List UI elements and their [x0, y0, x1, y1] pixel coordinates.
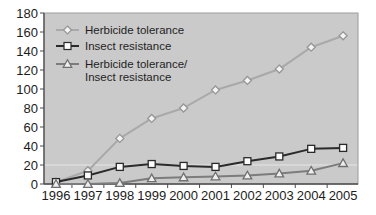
y-axis-label-80: 80 [24, 101, 38, 116]
marker-square-insect-resistance-2003 [276, 153, 283, 160]
y-axis-label-60: 60 [24, 120, 38, 135]
y-axis-label-100: 100 [16, 82, 38, 97]
legend-label-insect-resistance-line1: Insect resistance [85, 40, 171, 52]
marker-square-insect-resistance-1998 [116, 163, 123, 170]
biotech-crop-traits-chart: 0204060801001201401601801996199719981999… [0, 0, 376, 215]
marker-square-insect-resistance-1997 [84, 172, 91, 179]
marker-square-insect-resistance-1999 [148, 161, 155, 168]
x-axis-label-1997: 1997 [73, 188, 102, 203]
legend-label-herbicide-tolerance-insect-resistance-line2: Insect resistance [85, 71, 171, 83]
marker-square-insect-resistance-2001 [212, 163, 219, 170]
x-axis-label-1998: 1998 [105, 188, 134, 203]
legend-label-herbicide-tolerance-line1: Herbicide tolerance [85, 24, 184, 36]
marker-square-insect-resistance-2004 [308, 145, 315, 152]
y-axis-label-40: 40 [24, 139, 38, 154]
y-axis-label-140: 140 [16, 44, 38, 59]
marker-square-insect-resistance-2005 [340, 144, 347, 151]
x-axis-label-1996: 1996 [42, 188, 71, 203]
x-axis-label-2004: 2004 [297, 188, 326, 203]
x-axis-label-2000: 2000 [169, 188, 198, 203]
x-axis-label-2003: 2003 [265, 188, 294, 203]
legend-marker-square-insect-resistance [64, 43, 71, 50]
y-axis-label-160: 160 [16, 25, 38, 40]
x-axis-label-1999: 1999 [137, 188, 166, 203]
marker-square-insect-resistance-2002 [244, 158, 251, 165]
y-axis-label-20: 20 [24, 158, 38, 173]
marker-square-insect-resistance-2000 [180, 162, 187, 169]
x-axis-label-2002: 2002 [233, 188, 262, 203]
y-axis-label-0: 0 [31, 177, 38, 192]
line-chart-canvas: 0204060801001201401601801996199719981999… [0, 0, 376, 215]
legend-label-herbicide-tolerance-insect-resistance-line1: Herbicide tolerance/ [85, 58, 188, 70]
y-axis-label-120: 120 [16, 63, 38, 78]
x-axis-label-2005: 2005 [329, 188, 358, 203]
x-axis-label-2001: 2001 [201, 188, 230, 203]
y-axis-label-180: 180 [16, 6, 38, 21]
